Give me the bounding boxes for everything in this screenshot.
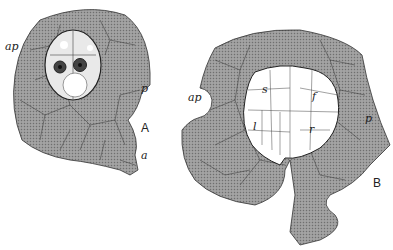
panel-b-label: B bbox=[373, 177, 381, 189]
diagram-canvas bbox=[0, 0, 393, 250]
panel-a-drawing bbox=[14, 10, 151, 175]
label-b-s: s bbox=[262, 84, 268, 95]
label-b-r: r bbox=[309, 124, 314, 135]
label-b-p: p bbox=[365, 113, 372, 124]
panel-a-label: A bbox=[141, 122, 149, 134]
label-b-l: l bbox=[253, 121, 257, 132]
label-a-ap: ap bbox=[5, 41, 19, 52]
label-b-f: f bbox=[312, 91, 316, 102]
panel-b-drawing bbox=[182, 30, 390, 245]
label-a-a: a bbox=[141, 150, 148, 161]
label-a-p: p bbox=[141, 83, 148, 94]
label-b-ap: ap bbox=[188, 92, 202, 103]
